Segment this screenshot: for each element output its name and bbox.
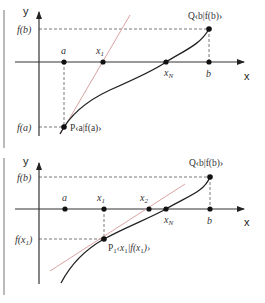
point-a — [61, 59, 66, 64]
x1-label: x1 — [96, 192, 105, 205]
x-axis-label: x — [244, 70, 250, 82]
xN-label: xN — [163, 214, 173, 227]
a-label: a — [61, 45, 66, 56]
point-xN — [163, 59, 168, 64]
fx1-label: f(x1) — [15, 234, 33, 247]
point-a — [62, 206, 67, 211]
point-Q-label: Q‹b|f(b)› — [189, 158, 223, 169]
point-x2 — [146, 206, 151, 211]
diagram-top: y x f(b) f(a) a x1 xN b P‹a|f(a)› Q‹b|f(… — [15, 5, 250, 136]
b-label: b — [207, 215, 212, 226]
regula-falsi-figure: y x f(b) f(a) a x1 xN b P‹a|f(a)› Q‹b|f(… — [0, 0, 265, 303]
a-label: a — [62, 192, 67, 203]
point-P1 — [101, 236, 107, 242]
point-Q-label: Q‹b|f(b)› — [188, 11, 222, 22]
fb-label: f(b) — [17, 172, 32, 184]
y-axis-label: y — [23, 155, 29, 167]
point-xN — [163, 206, 168, 211]
function-curve — [60, 29, 209, 134]
point-b — [206, 59, 211, 64]
diagram-bottom: y x f(b) f(x1) a x1 x2 xN b P1‹x1|f(x1)›… — [15, 155, 250, 284]
point-P1-label: P1‹x1|f(x1)› — [108, 243, 150, 255]
function-curve — [61, 177, 210, 283]
point-x1 — [100, 59, 105, 64]
x1-label: x1 — [95, 45, 104, 58]
xN-label: xN — [163, 67, 173, 80]
x2-label: x2 — [139, 192, 148, 205]
secant-line — [50, 184, 185, 271]
point-x1 — [101, 206, 106, 211]
point-Q — [207, 174, 213, 180]
b-label: b — [206, 68, 211, 79]
point-Q — [206, 26, 212, 32]
point-P-label: P‹a|f(a)› — [70, 123, 101, 134]
secant-line — [61, 15, 130, 133]
x-axis-label: x — [244, 216, 250, 228]
point-b — [207, 206, 212, 211]
y-axis-label: y — [23, 5, 29, 17]
fa-label: f(a) — [17, 122, 32, 134]
fb-label: f(b) — [17, 24, 32, 36]
point-P — [61, 124, 67, 130]
